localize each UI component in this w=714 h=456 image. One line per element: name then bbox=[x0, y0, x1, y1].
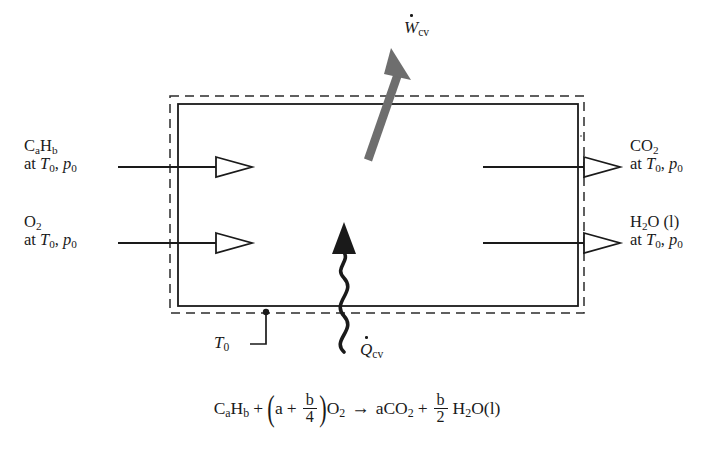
equation-fuel: CaHb bbox=[214, 398, 250, 419]
outlet-label-carbon-dioxide: CO2 at T0, p0 bbox=[630, 137, 683, 174]
equation-plus-2: + bbox=[414, 398, 432, 419]
outlet-label-carbon-dioxide-state: at T0, p0 bbox=[630, 155, 683, 173]
scan-speck bbox=[580, 135, 582, 137]
work-symbol: W bbox=[404, 18, 418, 37]
heat-subscript: cv bbox=[372, 348, 383, 361]
equation-carbon-dioxide: aCO2 bbox=[376, 398, 414, 419]
equation-paren-open: ( bbox=[267, 396, 274, 422]
equation-fraction-b-over-4: b 4 bbox=[303, 392, 317, 426]
heat-rate-label: Qcv bbox=[360, 340, 383, 359]
equation-fraction-b-over-2: b 2 bbox=[434, 392, 448, 426]
boundary-temperature-label: T0 bbox=[214, 333, 229, 352]
outlet-label-carbon-dioxide-species: CO2 bbox=[630, 136, 659, 155]
combustion-control-volume-figure: CaHb at T0, p0 O2 at T0, p0 CO2 at T0, p… bbox=[0, 0, 714, 456]
outlet-arrow-water bbox=[483, 233, 620, 253]
equation-plus-inner: + bbox=[283, 398, 301, 419]
outlet-label-water-species: H2O (l) bbox=[630, 212, 679, 231]
work-subscript: cv bbox=[418, 26, 429, 39]
inlet-label-oxygen-state: at T0, p0 bbox=[24, 231, 77, 249]
combustion-equation: CaHb + ( a + b 4 ) O2 → aCO2 + b 2 H2O(l… bbox=[0, 392, 714, 426]
outlet-label-water-state: at T0, p0 bbox=[630, 231, 683, 249]
outlet-arrow-carbon-dioxide bbox=[483, 157, 620, 177]
inlet-label-fuel-state: at T0, p0 bbox=[24, 155, 77, 173]
boundary-temperature-leader bbox=[250, 309, 269, 344]
heat-arrow-qcv bbox=[332, 222, 356, 352]
inlet-label-oxygen: O2 at T0, p0 bbox=[24, 213, 77, 250]
outlet-label-water: H2O (l) at T0, p0 bbox=[630, 213, 683, 250]
work-rate-label: Wcv bbox=[404, 18, 429, 37]
heat-symbol: Q bbox=[360, 340, 372, 359]
equation-plus-1: + bbox=[249, 398, 267, 419]
equation-coef-a: a bbox=[275, 398, 283, 419]
diagram-vector-layer bbox=[0, 0, 714, 456]
equation-water: H2O(l) bbox=[450, 398, 501, 419]
boundary-temperature-subscript: 0 bbox=[223, 341, 229, 354]
equation-oxygen: O2 bbox=[327, 398, 346, 419]
inlet-arrow-oxygen bbox=[118, 233, 252, 253]
inlet-label-oxygen-species: O2 bbox=[24, 212, 42, 231]
inlet-arrow-fuel bbox=[118, 157, 252, 177]
equation-yields-arrow-icon: → bbox=[345, 398, 375, 419]
equation-paren-close: ) bbox=[319, 396, 326, 422]
inlet-label-fuel-species: CaHb bbox=[24, 136, 58, 155]
inlet-label-fuel: CaHb at T0, p0 bbox=[24, 137, 77, 174]
